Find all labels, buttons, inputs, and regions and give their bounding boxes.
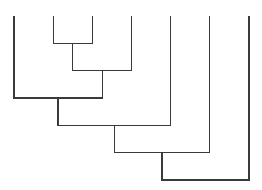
dendrogram-link-n12 — [162, 16, 249, 180]
dendrogram-link-n9 — [14, 16, 102, 98]
dendrogram-link-n11 — [114, 16, 209, 153]
dendrogram-link-n7 — [53, 16, 92, 43]
dendrogram — [0, 0, 262, 190]
